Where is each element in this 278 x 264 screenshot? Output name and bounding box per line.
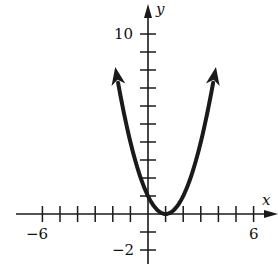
y-tick-label-neg2: −2 — [112, 243, 134, 258]
parabola-curve — [118, 83, 213, 214]
x-tick-label-neg6: −6 — [26, 227, 48, 242]
y-axis-label: y — [156, 2, 164, 17]
axes — [16, 4, 278, 264]
y-tick-label-10: 10 — [114, 27, 133, 42]
x-tick-label-6: 6 — [249, 227, 259, 242]
curve-arrowheads — [112, 67, 220, 86]
x-axis-label: x — [262, 193, 270, 208]
